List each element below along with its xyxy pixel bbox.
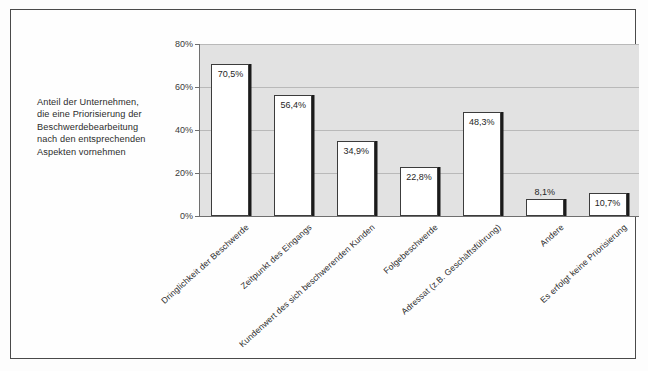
bar[interactable]: 34,9% (337, 141, 375, 216)
y-axis-tick-label: 0% (159, 211, 193, 221)
bar-value-label: 56,4% (275, 100, 311, 110)
x-axis-category-label: Dringlichkeit der Beschwerde (160, 222, 251, 306)
bar-group[interactable]: 10,7% (589, 44, 627, 216)
bar-group[interactable]: 48,3% (463, 44, 501, 216)
bar[interactable]: 56,4% (274, 95, 312, 216)
bar[interactable]: 22,8% (400, 167, 438, 216)
y-axis-tick-mark (195, 130, 199, 131)
y-axis-tick-label: 60% (159, 82, 193, 92)
bar-group[interactable]: 56,4% (274, 44, 312, 216)
y-axis-tick-label: 20% (159, 168, 193, 178)
x-axis-line (199, 216, 639, 217)
y-axis-tick-mark (195, 173, 199, 174)
y-axis-tick-mark (195, 216, 199, 217)
x-axis-category-label: Zeitpunkt des Eingangs (239, 222, 314, 291)
screenshot-root: Anteil der Unternehmen, die eine Prioris… (0, 0, 648, 371)
chart-frame: Anteil der Unternehmen, die eine Prioris… (10, 9, 636, 359)
x-axis-category-label: Andere (538, 222, 566, 248)
bar-value-label: 34,9% (338, 146, 374, 156)
x-axis-category-label: Adressat (z.B. Geschäftsführung) (399, 222, 502, 317)
caption-line: Beschwerdebearbeitung (37, 121, 177, 133)
bar-group[interactable]: 8,1% (526, 44, 564, 216)
bar-group[interactable]: 22,8% (400, 44, 438, 216)
bar[interactable]: 10,7% (589, 193, 627, 216)
caption-line: Anteil der Unternehmen, (37, 96, 177, 108)
y-axis-tick-label: 80% (159, 39, 193, 49)
x-axis-category-label: Folgebeschwerde (381, 222, 439, 276)
bar-value-label: 8,1% (527, 187, 563, 197)
bar[interactable]: 70,5% (211, 64, 249, 216)
chart-caption: Anteil der Unternehmen, die eine Prioris… (37, 96, 177, 158)
y-axis-line (199, 44, 200, 217)
caption-line: die eine Priorisierung der (37, 108, 177, 120)
bar[interactable]: 8,1% (526, 199, 564, 216)
y-axis-tick-mark (195, 87, 199, 88)
bar-value-label: 48,3% (464, 117, 500, 127)
bar-group[interactable]: 34,9% (337, 44, 375, 216)
bar-chart: 0%20%40%60%80% 70,5%56,4%34,9%22,8%48,3%… (199, 44, 639, 216)
bar-value-label: 10,7% (590, 198, 626, 208)
y-axis-tick-mark (195, 44, 199, 45)
caption-line: Aspekten vornehmen (37, 146, 177, 158)
bar[interactable]: 48,3% (463, 112, 501, 216)
x-axis-category-label: Kundenwert des sich beschwerenden Kunden (237, 222, 377, 349)
caption-line: nach den entsprechenden (37, 133, 177, 145)
bar-value-label: 22,8% (401, 172, 437, 182)
y-axis-tick-label: 40% (159, 125, 193, 135)
bar-group[interactable]: 70,5% (211, 44, 249, 216)
bar-value-label: 70,5% (212, 69, 248, 79)
